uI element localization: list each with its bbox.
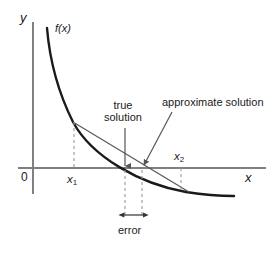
approximate-solution-label: approximate solution	[162, 96, 264, 108]
approximate-solution-pointer-arrow	[144, 112, 172, 165]
x2-subscript: 2	[180, 155, 184, 164]
x1-subscript: 1	[73, 178, 77, 187]
true-solution-line-1: true	[104, 99, 142, 111]
x1-base: x	[67, 173, 73, 185]
secant-method-diagram: y x 0 f(x) x1 x2 true solution approxima…	[0, 0, 279, 261]
true-solution-line-2: solution	[104, 111, 142, 123]
error-label: error	[118, 224, 141, 236]
x2-base: x	[174, 150, 180, 162]
x2-tick-label: x2	[174, 150, 184, 163]
diagram-canvas	[0, 0, 279, 261]
function-label: f(x)	[55, 22, 71, 34]
x1-tick-label: x1	[67, 173, 77, 186]
y-axis-label: y	[20, 11, 27, 26]
x-axis-label: x	[245, 171, 252, 186]
true-solution-label: true solution	[104, 99, 142, 124]
origin-label: 0	[21, 171, 28, 184]
secant-line	[73, 122, 189, 192]
